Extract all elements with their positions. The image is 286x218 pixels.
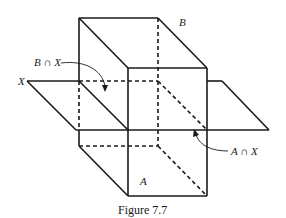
box-hidden-edges (79, 18, 207, 196)
figure-caption: Figure 7.7 (118, 203, 167, 217)
label-x: X (17, 75, 26, 87)
label-a: A (139, 175, 147, 187)
figure-diagram: B ∩ X X B A A ∩ X Figure 7.7 (0, 0, 286, 218)
plane-x (27, 81, 269, 130)
arrow-a-intersect-x (193, 129, 228, 151)
label-b: B (179, 16, 186, 28)
label-a-intersect-x: A ∩ X (230, 145, 259, 157)
label-b-intersect-x: B ∩ X (34, 56, 62, 68)
box-solid-edges (79, 18, 207, 196)
